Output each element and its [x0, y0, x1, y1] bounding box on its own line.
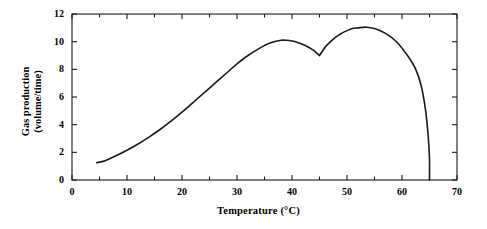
y-axis-label-12: 12 [34, 8, 64, 19]
x-axis-label-0: 0 [57, 186, 87, 197]
x-axis-label-40: 40 [277, 186, 307, 197]
x-axis-label-50: 50 [332, 186, 362, 197]
x-axis-label-20: 20 [167, 186, 197, 197]
x-axis-label-30: 30 [222, 186, 252, 197]
y-axis-label-6: 6 [34, 91, 64, 102]
y-axis-label-8: 8 [34, 63, 64, 74]
x-axis-label-70: 70 [442, 186, 472, 197]
y-axis-label-10: 10 [34, 36, 64, 47]
x-axis-label-60: 60 [387, 186, 417, 197]
x-axis-label-10: 10 [112, 186, 142, 197]
data-curve-gas-production [97, 27, 430, 180]
y-axis-label-0: 0 [34, 174, 64, 185]
gas-production-temperature-chart: Gas production (volume/time) Temperature… [0, 0, 487, 229]
plot-frame [72, 14, 457, 180]
y-axis-label-4: 4 [34, 119, 64, 130]
y-axis-label-2: 2 [34, 146, 64, 157]
